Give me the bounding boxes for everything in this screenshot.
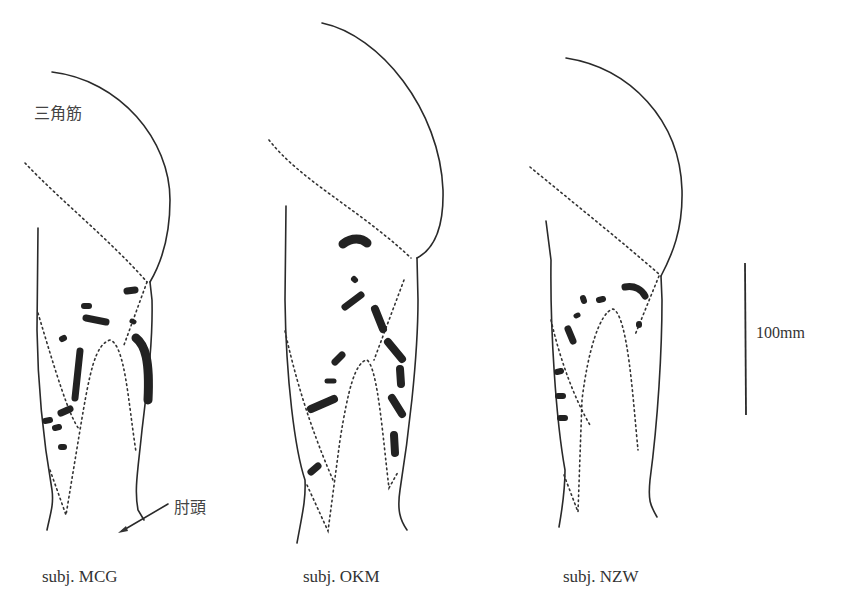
subject-label-okm: subj. OKM (303, 567, 380, 587)
subject-label-mcg: subj. MCG (42, 567, 118, 587)
arm-right-contour (649, 276, 662, 517)
arm-left-contour (37, 228, 53, 530)
marks-nzw (557, 287, 645, 418)
deltoid-boundary (530, 167, 659, 274)
muscle-boundary-v (50, 340, 136, 515)
elbow-arrow-line (122, 504, 168, 531)
deltoid-boundary (25, 163, 147, 282)
marks-okm (311, 239, 402, 472)
figure-canvas (0, 0, 842, 613)
arm-diagram-nzw (530, 58, 682, 527)
arm-diagram-mcg (25, 72, 170, 533)
muscle-boundary-v (307, 360, 398, 531)
arm-diagram-okm (269, 23, 443, 543)
arm-right-contour (399, 258, 418, 530)
elbow-label: 肘頭 (174, 494, 206, 518)
marks-mcg (45, 290, 148, 447)
scale-bar (745, 263, 746, 415)
deltoid-label: 三角筋 (34, 100, 82, 124)
scale-bar-label: 100mm (756, 324, 805, 342)
deltoid-boundary (269, 140, 411, 258)
subject-label-nzw: subj. NZW (563, 567, 639, 587)
shoulder-outline (322, 23, 443, 258)
elbow-arrow-head (118, 526, 128, 533)
